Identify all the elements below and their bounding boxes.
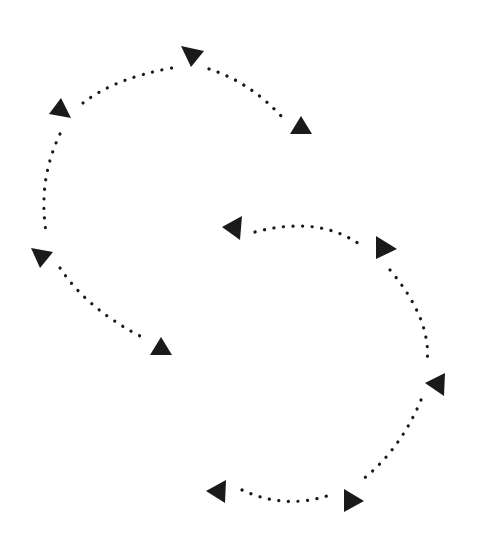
dotted-arc-top-left bbox=[83, 68, 172, 103]
dotted-arc-bottom-left bbox=[60, 268, 144, 338]
dotted-arc-left bbox=[44, 134, 60, 232]
dotted-arc-lower-right bbox=[362, 400, 421, 480]
diagram-groups bbox=[31, 46, 445, 512]
dotted-arc-bottom bbox=[242, 490, 330, 501]
dotted-arc-top-right bbox=[209, 69, 283, 118]
arrowhead-bottom-left-icon bbox=[206, 480, 226, 503]
dotted-arc-right bbox=[390, 270, 428, 363]
upper-left-cycle bbox=[31, 46, 312, 355]
arrowhead-right-icon bbox=[425, 373, 445, 396]
arrowhead-bottom-right-icon bbox=[150, 337, 172, 355]
dotted-arrow-cycle-diagram bbox=[0, 0, 486, 547]
lower-right-cycle bbox=[206, 216, 445, 512]
dotted-arc-top bbox=[255, 226, 362, 246]
arrowhead-top-left-icon bbox=[222, 216, 242, 240]
arrowhead-bottom-right-icon bbox=[344, 489, 364, 512]
arrowhead-left-icon bbox=[31, 248, 53, 268]
arrowhead-top-right-icon bbox=[376, 236, 397, 259]
arrowhead-top-right-icon bbox=[290, 116, 312, 134]
arrowhead-top-icon bbox=[181, 46, 204, 67]
arrowhead-upper-left-icon bbox=[49, 98, 71, 118]
